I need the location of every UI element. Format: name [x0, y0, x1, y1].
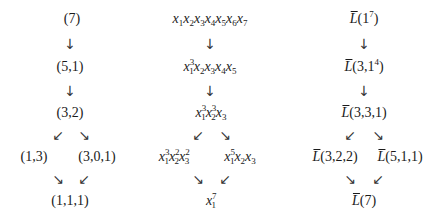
module-L-3-3-1: L(3,3,1) — [341, 105, 386, 121]
monomial-x1cubed-x2sq-x3sq: x31x22x23 — [159, 149, 190, 165]
arrow-down-icon: ↓ — [358, 84, 370, 98]
monomial-x1-seventh: x71 — [206, 193, 216, 209]
monomial-x1cubed-x2cubed-x3: x31x32x3 — [195, 105, 226, 121]
arrow-down-icon: ↓ — [204, 37, 216, 51]
arrow-sw-icon: ↙ — [344, 128, 356, 142]
arrow-sw-icon: ↙ — [219, 172, 231, 186]
arrow-down-icon: ↓ — [358, 37, 370, 51]
arrow-se-icon: ↘ — [344, 172, 356, 186]
partition-7: (7) — [64, 11, 80, 27]
arrow-sw-icon: ↙ — [52, 128, 64, 142]
arrow-sw-icon: ↙ — [192, 128, 204, 142]
partition-1-1-1: (1,1,1) — [51, 193, 88, 209]
monomial-x1cubed-x2x3x4x5: x31x2x3x4x5 — [183, 59, 236, 75]
partition-5-1: (5,1) — [57, 59, 84, 75]
module-L-3-2-2: L(3,2,2) — [312, 149, 357, 165]
arrow-down-icon: ↓ — [64, 84, 76, 98]
arrow-se-icon: ↘ — [192, 172, 204, 186]
partition-3-2: (3,2) — [57, 105, 84, 121]
module-L-7: L(7) — [352, 193, 376, 209]
arrow-sw-icon: ↙ — [78, 172, 90, 186]
arrow-sw-icon: ↙ — [372, 172, 384, 186]
arrow-down-icon: ↓ — [204, 84, 216, 98]
monomial-x1-fifth-x2x3: x51x2x3 — [224, 149, 256, 165]
module-L-3-1-4: L(3,14) — [344, 59, 383, 75]
partition-1-3: (1,3) — [21, 149, 48, 165]
module-L-1-7: L(17) — [350, 11, 379, 27]
monomial-x1-to-x7: x1x2x3x4x5x6x7 — [172, 11, 247, 27]
arrow-se-icon: ↘ — [372, 128, 384, 142]
module-L-5-1-1: L(5,1,1) — [377, 149, 422, 165]
partition-3-0-1: (3,0,1) — [78, 149, 115, 165]
arrow-se-icon: ↘ — [219, 128, 231, 142]
arrow-se-icon: ↘ — [78, 128, 90, 142]
arrow-down-icon: ↓ — [64, 37, 76, 51]
arrow-se-icon: ↘ — [52, 172, 64, 186]
